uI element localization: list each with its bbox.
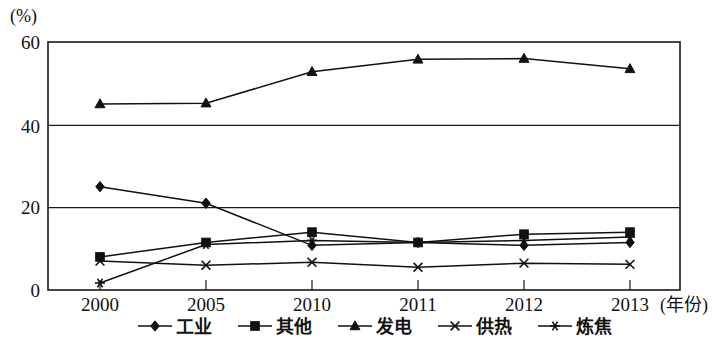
x-tick-2011: 2011 (399, 294, 436, 315)
legend-label-工业: 工业 (176, 317, 212, 337)
legend-item-炼焦[interactable]: 炼焦 (538, 316, 612, 337)
y-tick-60: 60 (21, 32, 40, 53)
datapoint-其他-2013 (626, 228, 635, 237)
series-炼焦 (95, 233, 635, 288)
legend-item-发电[interactable]: 发电 (338, 316, 412, 337)
chart-legend: 工业其他发电供热炼焦 (138, 316, 612, 337)
legend-label-其他: 其他 (276, 316, 312, 337)
legend-label-供热: 供热 (475, 316, 512, 337)
legend-diamond-icon (151, 321, 160, 331)
series-供热 (96, 257, 635, 272)
x-axis-tick-labels: 2000 2005 2010 2011 2012 2013 (81, 294, 649, 315)
x-axis-name: (年份) (660, 295, 708, 316)
legend-item-其他[interactable]: 其他 (238, 316, 312, 337)
datapoint-发电-2012 (519, 53, 529, 62)
y-tick-40: 40 (21, 116, 40, 137)
data-series-layer (95, 53, 635, 287)
datapoint-其他-2010 (308, 228, 317, 237)
datapoint-工业-2005 (202, 198, 211, 208)
x-tick-2005: 2005 (187, 294, 225, 315)
legend-square-icon (251, 322, 260, 331)
legend-label-炼焦: 炼焦 (576, 316, 612, 337)
chart-canvas: (%) 60 40 20 0 2000 2005 2010 2011 (0, 0, 717, 339)
legend-item-工业[interactable]: 工业 (138, 317, 212, 337)
y-axis-tick-labels: 60 40 20 0 (21, 32, 40, 301)
y-tick-0: 0 (31, 280, 41, 301)
series-line-发电 (100, 59, 630, 104)
x-tick-2000: 2000 (81, 294, 119, 315)
line-chart-figure: (%) 60 40 20 0 2000 2005 2010 2011 (0, 0, 717, 339)
plot-area-frame (48, 42, 680, 290)
series-line-供热 (100, 261, 630, 267)
datapoint-工业-2013 (626, 237, 635, 247)
datapoint-工业-2000 (96, 181, 105, 191)
legend-item-供热[interactable]: 供热 (438, 316, 512, 337)
legend-asterisk-icon (550, 322, 560, 331)
x-tick-2012: 2012 (505, 294, 543, 315)
y-tick-20: 20 (21, 197, 40, 218)
x-tick-2010: 2010 (293, 294, 331, 315)
legend-label-发电: 发电 (375, 316, 412, 337)
series-发电 (95, 53, 635, 107)
y-axis-unit-label: (%) (10, 6, 37, 27)
x-tick-2013: 2013 (611, 294, 649, 315)
datapoint-其他-2012 (520, 230, 529, 239)
x-axis-ticks (100, 280, 630, 290)
